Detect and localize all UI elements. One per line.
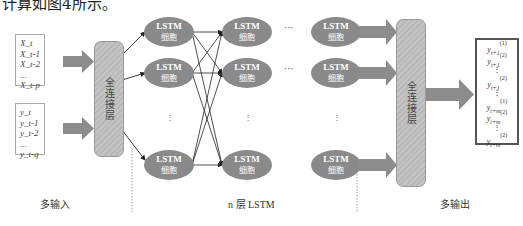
- output-item: yt+1(2): [477, 76, 517, 88]
- input-x-2: X_t-2: [20, 59, 40, 70]
- input-y-3: ...: [20, 139, 40, 150]
- output-item: yt+1(2): [477, 53, 517, 65]
- input-arrow-y: [63, 117, 94, 140]
- input-x-3: ...: [20, 70, 40, 81]
- input-box-x: X_t X_t-1 X_t-2 ... X_t-p: [15, 34, 45, 86]
- lstm-cell-2-1: LSTM细胞: [222, 21, 272, 43]
- lstm-interlayer-connections: [192, 32, 222, 165]
- label-multi-input: 多输入: [40, 196, 70, 211]
- fc-layer-input-label: 全连接层: [102, 77, 117, 121]
- input-box-y: y_t y_t-1 y_t-2 ... y_t-q: [15, 103, 45, 155]
- lstm-cell-2-2: LSTM细胞: [222, 62, 272, 84]
- lstm-cell-3-n: LSTM细胞: [311, 154, 361, 176]
- input-x-1: X_t-1: [20, 49, 40, 60]
- lstm-cell-1-2: LSTM细胞: [144, 62, 194, 84]
- output-item: yt+m(2): [477, 133, 517, 145]
- fc-layer-output: 全连接层: [396, 19, 426, 187]
- input-y-1: y_t-1: [20, 118, 40, 129]
- input-arrow-x: [63, 50, 94, 73]
- output-arrow: [422, 79, 474, 110]
- vdots-col1: ⋮: [166, 116, 174, 119]
- lstm-to-fc-arrows: [358, 19, 397, 178]
- lstm-cell-3-2: LSTM细胞: [311, 62, 361, 84]
- output-item: ⋮: [477, 122, 517, 134]
- input-y-4: y_t-q: [20, 149, 40, 160]
- lstm-cell-2-n: LSTM细胞: [222, 154, 272, 176]
- label-n-layer-lstm: n 层 LSTM: [228, 196, 275, 211]
- input-x-0: X_t: [20, 38, 40, 49]
- label-multi-output: 多输出: [440, 196, 470, 211]
- output-item: yt+1(1): [477, 41, 517, 53]
- output-item: ⋮: [477, 64, 517, 76]
- lstm-cell-1-n: LSTM细胞: [144, 154, 194, 176]
- lstm-cell-3-1: LSTM细胞: [311, 21, 361, 43]
- lstm-cell-1-1: LSTM细胞: [144, 21, 194, 43]
- hdots-row1: ···: [284, 22, 294, 33]
- input-y-2: y_t-2: [20, 128, 40, 139]
- fc-layer-output-label: 全连接层: [404, 81, 419, 125]
- fc-layer-input: 全连接层: [94, 41, 124, 157]
- fc-to-lstm-connections: [122, 32, 145, 160]
- input-y-0: y_t: [20, 107, 40, 118]
- output-item: ⋮: [477, 87, 517, 99]
- vdots-col2: ⋮: [244, 116, 252, 119]
- hdots-row2: ···: [284, 63, 294, 74]
- output-box: yt+1(1) yt+1(2) ⋮ yt+1(2) ⋮ yt+m(1) yt+m…: [475, 38, 519, 145]
- input-x-4: X_t-p: [20, 80, 40, 91]
- output-item: yt+m(1): [477, 99, 517, 111]
- vdots-col3: ⋮: [333, 116, 341, 119]
- output-item: yt+m(2): [477, 110, 517, 122]
